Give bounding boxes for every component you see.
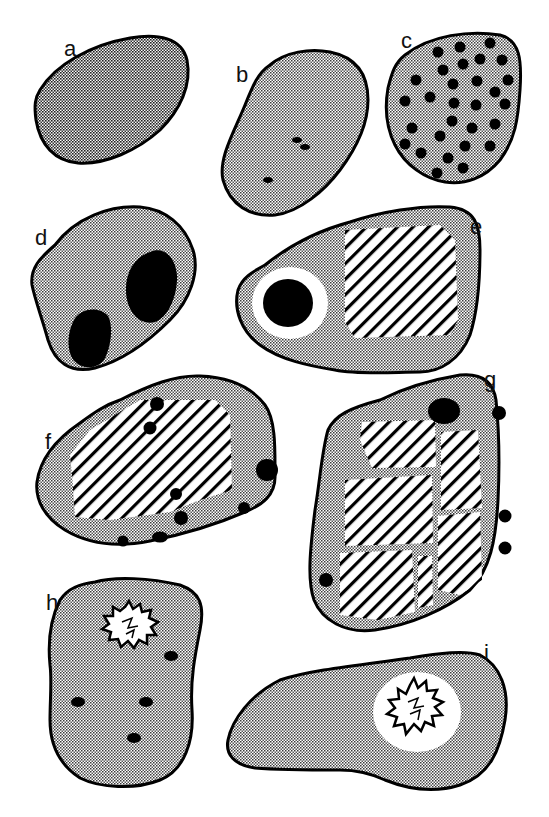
grain-g: g [310,367,512,631]
label-c: c [401,28,412,53]
grain-f: f [37,376,278,547]
label-i: i [484,640,489,665]
label-g: g [484,367,496,392]
label-h: h [46,590,58,615]
label-a: a [64,36,77,61]
grain-b: b [222,51,368,216]
grain-diagram: a b c d e [0,0,549,817]
grain-e: e [237,207,483,373]
grain-h: h [46,578,202,786]
grain-a: a [35,36,188,163]
label-f: f [45,429,52,454]
grain-c: c [386,28,520,183]
grain-d: d [32,207,195,370]
label-b: b [236,62,248,87]
label-e: e [470,214,482,239]
grain-i: i [227,640,506,790]
label-d: d [35,225,47,250]
